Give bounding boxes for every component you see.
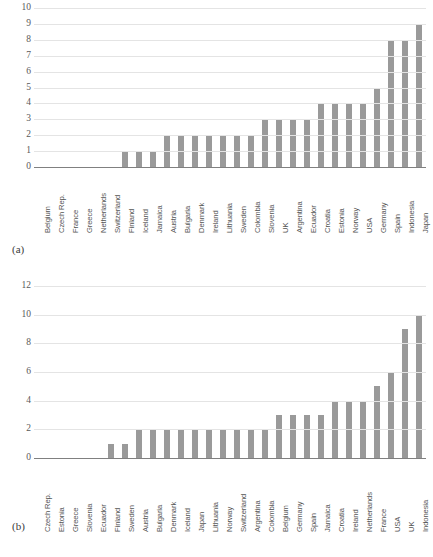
x-tick-label: Czech Rep.	[58, 194, 66, 233]
x-tick-label: Belgium	[44, 206, 52, 233]
bar	[220, 429, 226, 458]
bar	[178, 429, 184, 458]
gridline	[34, 40, 426, 41]
x-tick-label: Argentina	[296, 201, 304, 233]
plot-area-b	[34, 286, 426, 458]
x-tick-label: Germany	[296, 501, 304, 532]
x-axis-labels-b: Czech Rep.EstoniaGreeceSloveniaEcuadorFi…	[34, 462, 426, 532]
x-tick-label: Spain	[310, 513, 318, 532]
x-tick-label: Indonesia	[422, 500, 430, 532]
gridline	[34, 286, 426, 287]
x-tick-label: Indonesia	[408, 201, 416, 233]
x-tick-label: Czech Rep.	[44, 493, 52, 532]
y-tick-label: 0	[26, 162, 31, 172]
gridline	[34, 135, 426, 136]
x-tick-label: Ecuador	[310, 205, 318, 233]
gridline	[34, 372, 426, 373]
x-tick-label: Colombia	[268, 501, 276, 532]
y-tick-label: 7	[26, 51, 31, 61]
gridline	[34, 72, 426, 73]
plot-area-a	[34, 8, 426, 167]
y-tick-label: 4	[26, 99, 31, 109]
x-tick-label: Sweden	[240, 206, 248, 233]
x-tick-label: Finland	[114, 508, 122, 532]
x-tick-label: Germany	[380, 202, 388, 233]
x-tick-label: Japan	[422, 213, 430, 233]
bar	[108, 444, 114, 458]
bar	[402, 329, 408, 458]
x-tick-label: Ireland	[212, 210, 220, 233]
x-tick-label: Norway	[352, 208, 360, 233]
panel-label-b: (b)	[12, 520, 25, 532]
bar	[416, 24, 422, 167]
y-axis-b: 024681012	[0, 280, 34, 478]
gridline	[34, 8, 426, 9]
bar	[276, 415, 282, 458]
x-tick-label: Finland	[128, 209, 136, 233]
x-tick-label: Iceland	[184, 508, 192, 532]
bar	[136, 429, 142, 458]
x-tick-label: UK	[282, 223, 290, 233]
gridline	[34, 429, 426, 430]
x-tick-label: Denmark	[198, 203, 206, 233]
y-tick-label: 0	[26, 453, 31, 463]
x-tick-label: Ireland	[352, 509, 360, 532]
x-tick-label: Austria	[170, 210, 178, 233]
x-tick-label: Lithuania	[212, 502, 220, 532]
x-tick-label: Croatia	[338, 508, 346, 532]
y-tick-label: 9	[26, 19, 31, 29]
y-tick-label: 2	[26, 130, 31, 140]
x-tick-label: Denmark	[170, 502, 178, 532]
x-tick-label: Argentina	[254, 500, 262, 532]
x-tick-label: Belgium	[282, 505, 290, 532]
x-axis-line	[34, 167, 426, 168]
x-axis-labels-a: BelgiumCzech Rep.FranceGreeceNetherlands…	[34, 171, 426, 233]
x-tick-label: Japan	[198, 512, 206, 532]
gridline	[34, 343, 426, 344]
x-tick-label: UK	[408, 522, 416, 532]
gridline	[34, 119, 426, 120]
x-tick-label: Netherlands	[366, 492, 374, 532]
gridline	[34, 56, 426, 57]
bar	[276, 119, 282, 167]
y-tick-label: 8	[26, 35, 31, 45]
x-tick-label: Norway	[226, 507, 234, 532]
x-tick-label: Bulgaria	[184, 206, 192, 233]
gridline	[34, 24, 426, 25]
y-tick-label: 8	[26, 339, 31, 349]
x-tick-label: Slovenia	[268, 205, 276, 233]
x-axis-line	[34, 458, 426, 459]
panel-label-a: (a)	[12, 243, 24, 255]
x-tick-label: Estonia	[58, 507, 66, 532]
bar	[122, 151, 128, 167]
bar	[304, 415, 310, 458]
y-tick-label: 4	[26, 396, 31, 406]
x-tick-label: Jamaica	[156, 205, 164, 233]
y-tick-label: 12	[22, 281, 32, 291]
bar	[290, 119, 296, 167]
bar	[248, 429, 254, 458]
bar	[304, 119, 310, 167]
x-tick-label: Estonia	[338, 208, 346, 233]
bar	[234, 429, 240, 458]
x-tick-label: USA	[394, 517, 402, 532]
bar	[262, 429, 268, 458]
x-tick-label: Greece	[72, 508, 80, 532]
y-tick-label: 2	[26, 425, 31, 435]
y-tick-label: 10	[22, 310, 32, 320]
gridline	[34, 315, 426, 316]
x-tick-label: Austria	[142, 509, 150, 532]
bar	[374, 386, 380, 458]
y-axis-a: 012345678910	[0, 0, 34, 187]
y-tick-label: 3	[26, 115, 31, 125]
bar	[150, 151, 156, 167]
x-tick-label: Greece	[86, 209, 94, 233]
x-tick-label: Jamaica	[324, 504, 332, 532]
x-tick-label: Switzerland	[240, 494, 248, 532]
bar	[416, 315, 422, 458]
bar	[122, 444, 128, 458]
x-tick-label: Ecuador	[100, 504, 108, 532]
gridline	[34, 401, 426, 402]
bar	[150, 429, 156, 458]
x-tick-label: Lithuania	[226, 203, 234, 233]
